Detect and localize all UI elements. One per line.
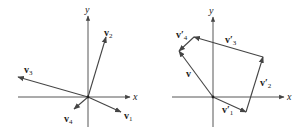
label-v4: v4 bbox=[64, 113, 73, 126]
label-v2-prime: v′2 bbox=[260, 77, 272, 90]
label-v3-prime: v′3 bbox=[225, 34, 237, 47]
label-v4-prime: v′4 bbox=[176, 29, 188, 42]
figure-canvas: y x v1 v2 v3 v4 y x v′1 v′2 v bbox=[0, 0, 303, 136]
vector-v1-arrow bbox=[88, 97, 121, 112]
left-x-axis-label: x bbox=[132, 91, 138, 102]
vector-addition-figure: y x v1 v2 v3 v4 y x v′1 v′2 v bbox=[0, 0, 303, 136]
label-resultant-v: v bbox=[186, 68, 191, 79]
right-diagram: y x v′1 v′2 v′3 v′4 v bbox=[172, 5, 292, 127]
vector-v3-arrow bbox=[18, 77, 88, 97]
left-diagram: y x v1 v2 v3 v4 bbox=[18, 4, 138, 127]
label-v1: v1 bbox=[124, 110, 133, 123]
resultant-vector-v-arrow bbox=[179, 51, 213, 97]
left-origin-dot bbox=[87, 96, 90, 99]
vector-v4-arrow bbox=[74, 97, 88, 109]
vector-v2-arrow bbox=[88, 37, 106, 97]
right-x-axis-label: x bbox=[286, 91, 292, 102]
right-origin-dot bbox=[212, 96, 215, 99]
label-v3: v3 bbox=[24, 64, 33, 77]
right-y-axis-label: y bbox=[208, 5, 214, 16]
left-y-axis-label: y bbox=[84, 4, 90, 15]
